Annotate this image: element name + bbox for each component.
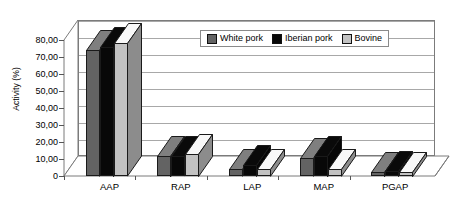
y-tick-mark xyxy=(59,74,64,75)
y-tick-mark xyxy=(59,108,64,109)
bar-side-face xyxy=(198,134,214,178)
legend-label: Bovine xyxy=(355,34,383,43)
x-tick-label-rap: RAP xyxy=(171,181,191,192)
legend-swatch-icon xyxy=(207,34,217,44)
bar-aap-bovine[interactable] xyxy=(114,20,128,176)
legend-item-white-pork[interactable]: White pork xyxy=(207,34,263,44)
legend-label: Iberian pork xyxy=(285,34,333,43)
x-tick-label-lap: LAP xyxy=(243,181,261,192)
bar-aap-white-pork[interactable] xyxy=(86,20,100,176)
bar-front-face xyxy=(157,156,171,176)
bar-front-face xyxy=(114,43,128,176)
y-tick-mark xyxy=(59,142,64,143)
y-tick-mark xyxy=(59,91,64,92)
legend-swatch-icon xyxy=(272,34,282,44)
bar-front-face xyxy=(314,156,328,176)
legend-swatch-icon xyxy=(342,34,352,44)
x-tick-label-map: MAP xyxy=(313,181,334,192)
legend-label: White pork xyxy=(220,34,263,43)
legend-item-iberian-pork[interactable]: Iberian pork xyxy=(272,34,333,44)
bar-aap-iberian-pork[interactable] xyxy=(100,20,114,176)
bar-chart: Activity (%) 010,0020,0030,0040,0050,006… xyxy=(0,0,463,208)
bar-side-face xyxy=(412,152,428,178)
bar-front-face xyxy=(171,156,185,176)
y-tick-mark xyxy=(59,176,64,177)
bar-side-face xyxy=(127,23,143,178)
y-tick-mark xyxy=(59,125,64,126)
x-tick-label-pgap: PGAP xyxy=(382,181,408,192)
bar-front-face xyxy=(86,50,100,176)
bar-side-face xyxy=(270,149,286,178)
x-tick-mark xyxy=(64,176,65,180)
bar-rap-iberian-pork[interactable] xyxy=(171,20,185,176)
y-tick-mark xyxy=(59,40,64,41)
y-tick-mark xyxy=(59,57,64,58)
bar-side-face xyxy=(341,149,357,178)
x-tick-label-aap: AAP xyxy=(100,181,119,192)
x-tick-mark xyxy=(135,176,136,180)
legend-item-bovine[interactable]: Bovine xyxy=(342,34,383,44)
chart-legend: White porkIberian porkBovine xyxy=(200,30,389,47)
x-tick-mark xyxy=(278,176,279,180)
bar-front-face xyxy=(100,47,114,176)
bar-front-face xyxy=(185,154,199,176)
x-tick-mark xyxy=(207,176,208,180)
y-tick-mark xyxy=(59,159,64,160)
bar-rap-bovine[interactable] xyxy=(185,20,199,176)
bar-pgap-bovine[interactable] xyxy=(399,20,413,176)
bar-rap-white-pork[interactable] xyxy=(157,20,171,176)
x-tick-mark xyxy=(350,176,351,180)
bar-front-face xyxy=(300,158,314,176)
